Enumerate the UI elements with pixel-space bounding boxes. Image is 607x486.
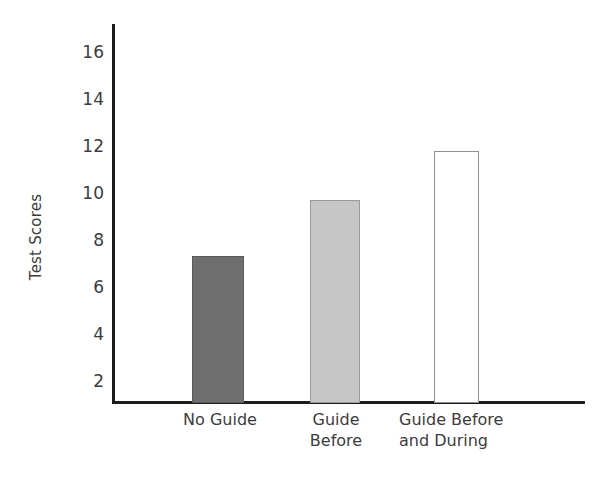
x-axis-label-guide-before: Guide Before xyxy=(296,409,376,451)
x-axis-label-no-guide: No Guide xyxy=(168,409,272,430)
bar-no-guide[interactable] xyxy=(192,256,244,403)
bar-guide-before[interactable] xyxy=(310,200,360,403)
x-axis-label-guide-before-and-during: Guide Before and During xyxy=(399,409,559,451)
bar-chart: Test Scores 16 14 12 10 8 6 4 2 No Guide… xyxy=(0,0,607,486)
bar-guide-before-and-during[interactable] xyxy=(434,151,479,403)
